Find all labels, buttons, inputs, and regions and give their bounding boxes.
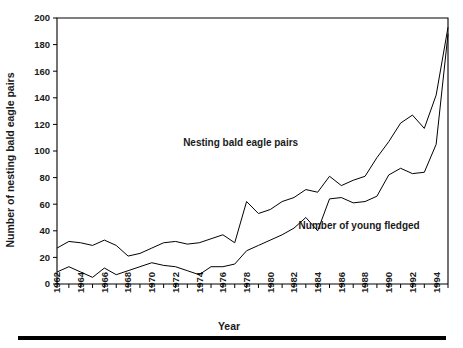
- x-tick-label: 1986: [336, 272, 347, 293]
- x-axis-title: Year: [218, 320, 240, 332]
- x-tick-label: 1988: [359, 272, 370, 293]
- x-tick-label: 1990: [383, 272, 394, 293]
- y-tick-label: 180: [34, 39, 50, 50]
- eagle-population-line-chart: 020406080100120140160180200 196219641966…: [0, 0, 463, 348]
- y-tick-label: 0: [45, 278, 50, 289]
- x-tick-label: 1972: [170, 272, 181, 293]
- y-tick-label: 80: [39, 172, 50, 183]
- x-tick-label: 1976: [217, 272, 228, 293]
- x-tick-label: 1968: [122, 272, 133, 293]
- x-tick-label: 1994: [431, 271, 442, 293]
- y-tick-label: 60: [39, 199, 50, 210]
- series-annotation-2: Number of young fledged: [299, 220, 420, 231]
- x-tick-label: 1970: [146, 272, 157, 293]
- series-annotation-1: Nesting bald eagle pairs: [183, 137, 298, 148]
- y-tick-label: 160: [34, 66, 50, 77]
- x-tick-label: 1966: [99, 272, 110, 293]
- y-tick-label: 200: [34, 12, 50, 23]
- bottom-divider-rule: [18, 336, 446, 340]
- x-tick-label: 1992: [407, 272, 418, 293]
- x-tick-label: 1964: [75, 271, 86, 293]
- chart-background: [0, 0, 463, 348]
- x-tick-label: 1980: [265, 272, 276, 293]
- y-tick-label: 20: [39, 252, 50, 263]
- y-tick-label: 140: [34, 92, 50, 103]
- y-tick-label: 100: [34, 145, 50, 156]
- chart-figure: 020406080100120140160180200 196219641966…: [0, 0, 463, 348]
- y-axis-title: Number of nesting bald eagle pairs: [4, 72, 16, 247]
- x-tick-label: 1982: [288, 272, 299, 293]
- x-tick-label: 1978: [241, 272, 252, 293]
- x-tick-label: 1984: [312, 271, 323, 293]
- y-tick-label: 120: [34, 119, 50, 130]
- y-tick-label: 40: [39, 225, 50, 236]
